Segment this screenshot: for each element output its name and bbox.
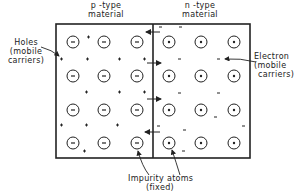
donor-ions (163, 36, 240, 149)
electron-leader (225, 59, 256, 62)
electrons (157, 27, 245, 151)
holes (60, 36, 146, 153)
donor-plus-signs (168, 41, 235, 144)
impurity-leader-acceptor (138, 151, 149, 175)
acceptor-minus-signs (71, 42, 139, 143)
pn-junction-diagram (0, 0, 304, 194)
acceptor-ions (67, 36, 143, 149)
impurity-leader-donor (172, 150, 180, 175)
leader-lines (41, 47, 256, 175)
